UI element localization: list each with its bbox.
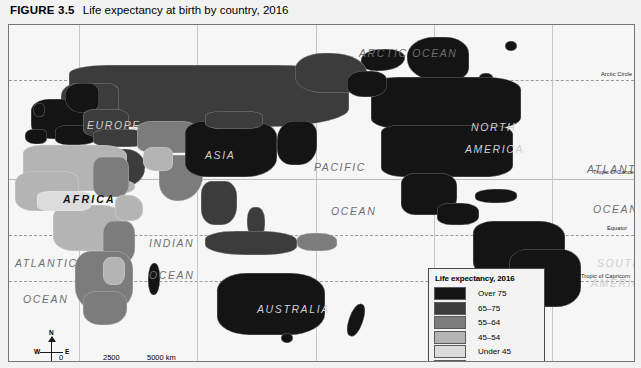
landmass-central-america <box>437 203 479 225</box>
ocean-label-atlantic-south: ATLANTIC <box>15 257 78 269</box>
continent-label-asia: ASIA <box>205 149 235 161</box>
legend-label-55-64: 55–64 <box>478 318 500 327</box>
landmass-caribbean <box>475 189 517 203</box>
landmass-tasmania <box>281 333 293 343</box>
scale-tick-2500: 2500 <box>103 353 120 362</box>
legend-title: Life expectancy, 2016 <box>435 274 539 283</box>
legend-label-65-75: 65–75 <box>478 304 500 313</box>
landmass-southeast-asia <box>201 181 237 225</box>
legend-item-45-54: 45–54 <box>434 331 539 344</box>
ocean-label-atlantic-north-ocean: OCEAN <box>593 203 635 215</box>
ocean-label-pacific-ocean: OCEAN <box>331 205 376 217</box>
legend-swatch-55-64 <box>434 316 466 329</box>
legend-label-over-75: Over 75 <box>478 289 506 298</box>
landmass-afghanistan-pakistan <box>143 147 173 171</box>
legend-swatch-65-75 <box>434 302 466 315</box>
figure-caption: FIGURE 3.5 Life expectancy at birth by c… <box>10 4 630 21</box>
continent-label-africa: AFRICA <box>63 193 116 205</box>
ocean-label-indian-ocean: OCEAN <box>149 269 194 281</box>
ocean-label-arctic: ARCTIC OCEAN <box>359 47 458 59</box>
figure-title: Life expectancy at birth by country, 201… <box>83 4 289 16</box>
latitude-label-arctic-circle: Arctic Circle <box>601 71 632 77</box>
latitude-label-tropic-capricorn: Tropic of Capricorn <box>581 273 630 279</box>
legend-item-55-64: 55–64 <box>434 316 539 329</box>
ocean-label-pacific: PACIFIC <box>314 161 366 173</box>
landmass-mongolia <box>205 111 263 129</box>
continent-label-europe: EUROPE <box>87 119 141 131</box>
legend-item-no-data: No data <box>434 360 539 363</box>
legend-swatch-45-54 <box>434 331 466 344</box>
scale-tick-labels: 0 2500 5000 km <box>61 353 177 362</box>
legend-label-under-45: Under 45 <box>478 347 511 356</box>
continent-label-north: NORTH <box>471 121 516 133</box>
compass-label-west: W <box>34 348 40 355</box>
ocean-label-atlantic-south-ocean: OCEAN <box>23 293 68 305</box>
legend-item-65-75: 65–75 <box>434 302 539 315</box>
scale-tick-0: 0 <box>59 353 63 362</box>
landmass-egypt-sudan <box>93 157 129 197</box>
figure-number: FIGURE 3.5 <box>10 4 75 16</box>
scale-tick-5000: 5000 km <box>147 353 176 362</box>
latitude-label-equator: Equator <box>607 225 627 231</box>
continent-label-australia: AUSTRALIA <box>257 303 330 315</box>
legend-item-over-75: Over 75 <box>434 287 539 300</box>
compass-label-north: N <box>49 329 54 336</box>
continent-label-south: SOUTH <box>597 257 635 269</box>
legend-label-no-data: No data <box>478 362 506 363</box>
landmass-south-africa <box>83 291 127 325</box>
latitude-label-tropic-cancer: Tropic of Cancer <box>593 169 635 175</box>
gridline-meridian-5 <box>552 25 553 361</box>
landmass-horn-of-africa <box>115 195 143 221</box>
landmass-indonesia <box>205 231 297 255</box>
compass-vertical-bar <box>51 339 52 362</box>
landmass-svalbard <box>505 41 517 51</box>
continent-label-north-america: AMERICA <box>465 143 524 155</box>
map-legend: Life expectancy, 2016 Over 75 65–75 55–6… <box>428 268 545 362</box>
landmass-iberia <box>25 129 47 144</box>
landmass-korea-japan <box>277 121 317 165</box>
map-scale-bar: 0 2500 5000 km <box>61 353 177 362</box>
legend-label-45-54: 45–54 <box>478 333 500 342</box>
ocean-label-indian: INDIAN <box>149 237 194 249</box>
landmass-greenland <box>407 37 469 81</box>
landmass-zambia-malawi <box>103 257 125 285</box>
legend-swatch-under-45 <box>434 345 466 358</box>
legend-swatch-no-data <box>434 360 466 363</box>
landmass-papua-new-guinea <box>297 233 337 251</box>
legend-swatch-over-75 <box>434 287 466 300</box>
map-figure: ARCTIC OCEAN PACIFIC OCEAN ATLANTIC OCEA… <box>8 24 635 362</box>
landmass-alaska <box>347 71 387 97</box>
landmass-britain <box>33 103 45 117</box>
legend-item-under-45: Under 45 <box>434 345 539 358</box>
